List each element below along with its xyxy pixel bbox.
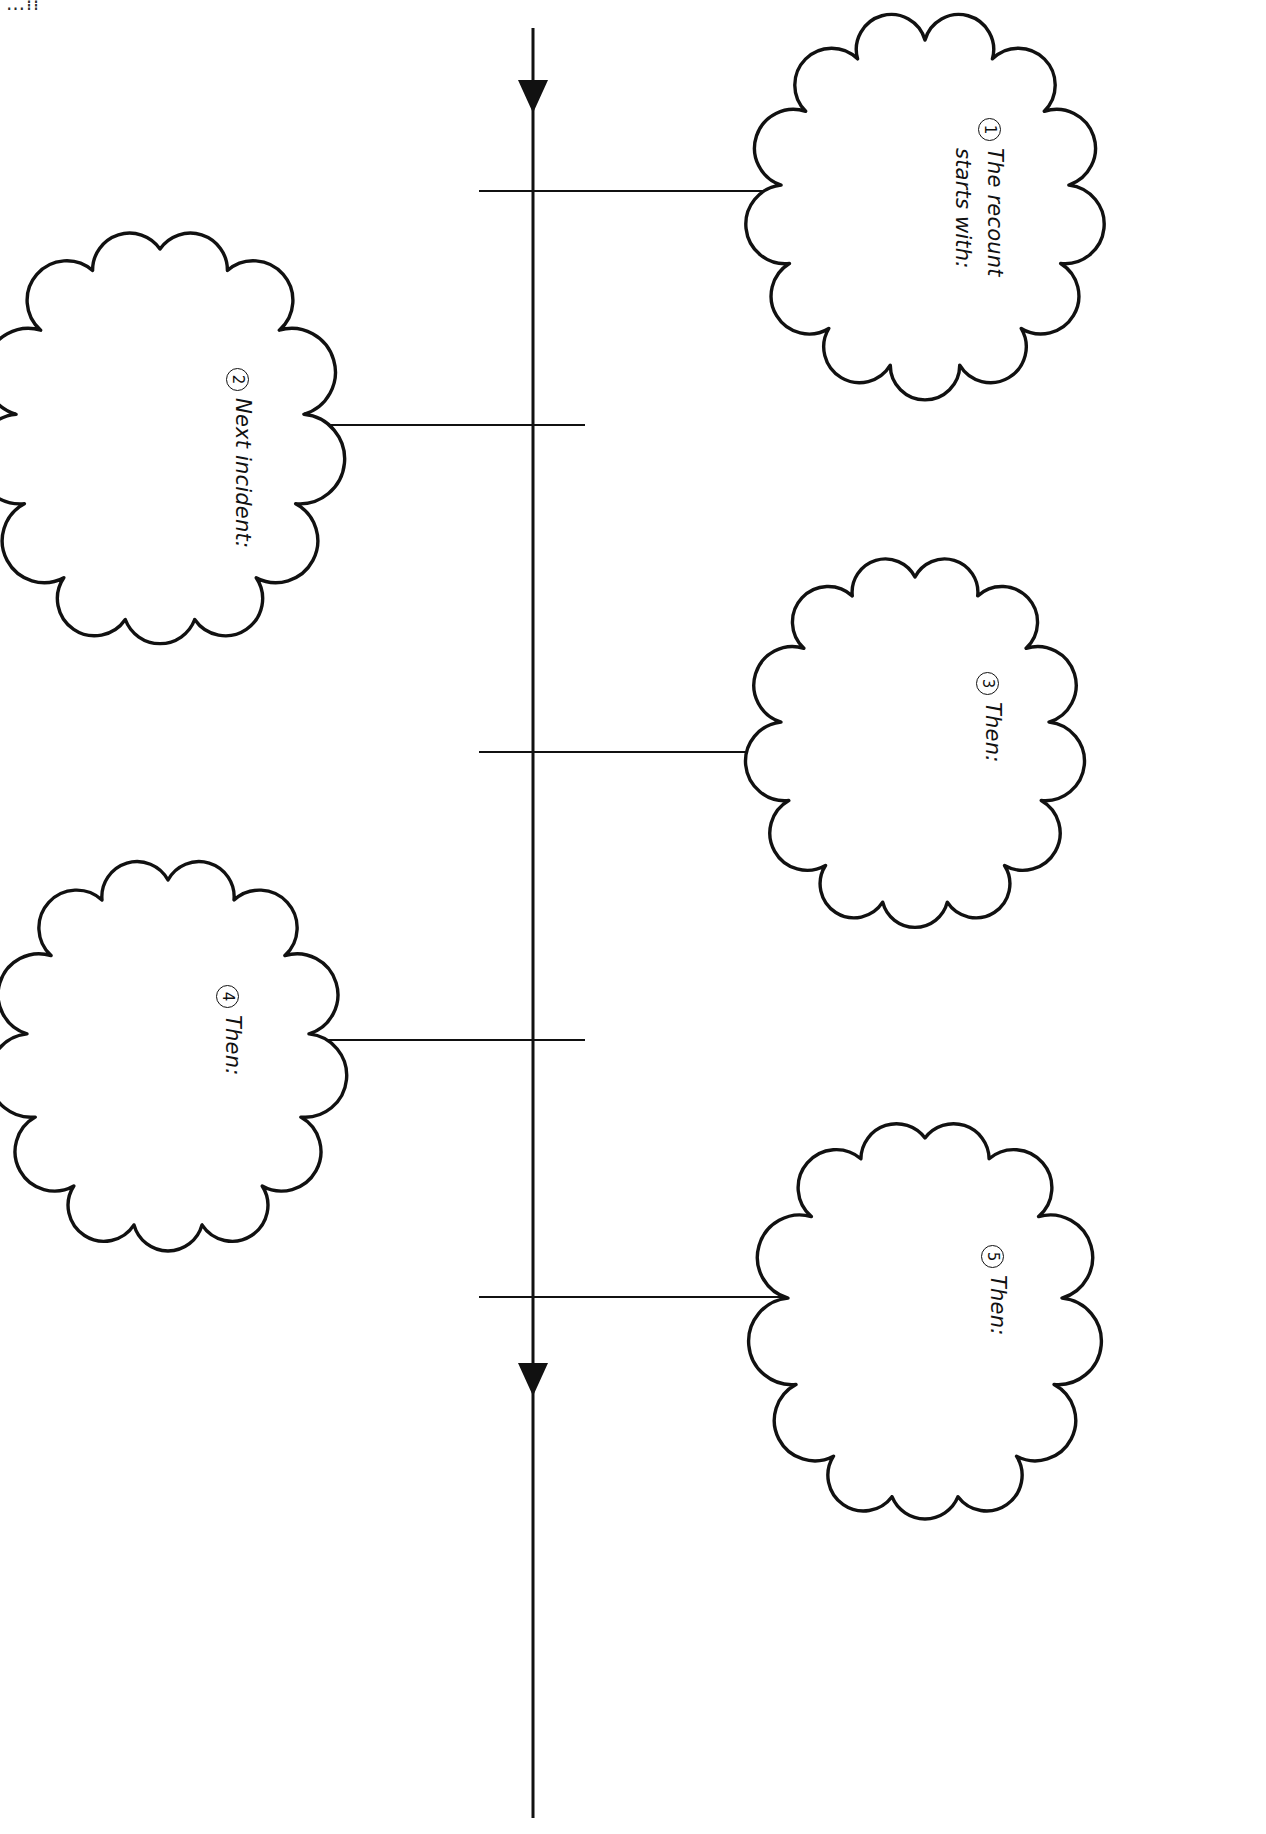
cloud-3-step-number: 3 [976,672,999,695]
timeline-arrow-top [518,80,548,113]
cloud-4-shape [0,862,347,1251]
diagram-layer [0,0,1266,1834]
cloud-2-shape [0,233,345,644]
cloud-3-prompt-line-1: Then: [981,702,1005,762]
worksheet-canvas: …⁞⁞ 1The recountstarts with:2Next incide… [0,0,1266,1834]
cloud-5-step-number: 5 [981,1245,1004,1268]
cloud-2-prompt-line-1: Next incident: [231,398,255,548]
cloud-4-label[interactable]: 4Then: [216,985,248,1075]
connector-lines-group [310,191,790,1297]
cloud-1-shape [746,14,1104,399]
cloud-2-label[interactable]: 2Next incident: [226,368,258,548]
cloud-3-shape [746,559,1085,927]
timeline-arrow-bottom [518,1363,548,1396]
cloud-4-step-number: 4 [216,985,239,1008]
cloud-5-label[interactable]: 5Then: [981,1245,1013,1335]
cloud-3-label[interactable]: 3Then: [976,672,1008,762]
cloud-1-prompt-line-1: The recount [983,148,1007,277]
cloud-1-step-number: 1 [978,118,1001,141]
cloud-4-prompt-line-1: Then: [221,1015,245,1075]
cloud-shapes-group [0,14,1104,1518]
timeline-group [479,28,585,1818]
cloud-5-shape [749,1124,1102,1519]
cloud-1-label[interactable]: 1The recountstarts with: [948,118,1010,277]
cloud-1-prompt-line-2: starts with: [948,148,978,277]
cloud-2-step-number: 2 [226,368,249,391]
cloud-5-prompt-line-1: Then: [986,1275,1010,1335]
